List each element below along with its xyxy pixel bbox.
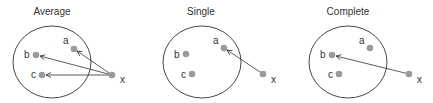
point-x — [406, 71, 413, 78]
label-b: b — [320, 49, 326, 60]
label-c: c — [328, 69, 333, 80]
point-b — [329, 52, 336, 59]
point-c — [189, 71, 196, 78]
point-c — [39, 72, 46, 79]
arrow-x-to-b — [336, 56, 409, 74]
label-b: b — [24, 49, 30, 60]
panel-title-average: Average — [33, 6, 71, 17]
linkage-diagram: Average a b c x Single a b c x Complete … — [0, 0, 433, 103]
point-b — [33, 52, 40, 59]
label-c: c — [181, 69, 186, 80]
point-x — [109, 72, 116, 79]
cluster-circle — [163, 26, 241, 98]
label-a: a — [359, 35, 365, 46]
arrow-x-to-a — [77, 51, 112, 75]
panel-single: Single a b c x — [163, 6, 276, 98]
point-x — [260, 71, 267, 78]
label-x: x — [271, 74, 276, 85]
arrow-x-to-b — [40, 56, 112, 75]
point-a — [71, 46, 78, 53]
label-x: x — [417, 74, 422, 85]
arrow-x-to-a — [227, 50, 263, 74]
cluster-circle — [309, 26, 387, 98]
panel-title-complete: Complete — [327, 6, 370, 17]
cluster-circle — [13, 26, 91, 98]
label-x: x — [120, 74, 125, 85]
point-a — [221, 45, 228, 52]
label-a: a — [63, 35, 69, 46]
point-a — [367, 45, 374, 52]
point-b — [183, 51, 190, 58]
panel-average: Average a b c x — [13, 6, 125, 98]
label-a: a — [213, 35, 219, 46]
panel-complete: Complete a b c x — [309, 6, 422, 98]
panel-title-single: Single — [187, 6, 215, 17]
label-b: b — [174, 49, 180, 60]
label-c: c — [31, 69, 36, 80]
point-c — [336, 71, 343, 78]
